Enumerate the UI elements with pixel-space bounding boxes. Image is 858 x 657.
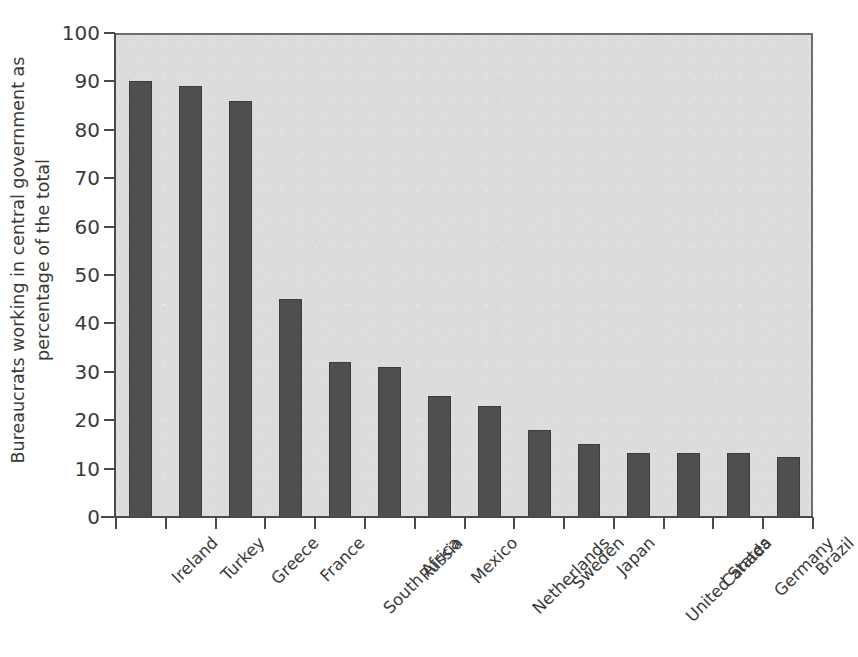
x-axis-tick — [264, 517, 266, 529]
y-axis-tick-label: 40 — [40, 313, 100, 333]
x-axis-tick — [613, 517, 615, 529]
y-axis-tick-label: 0 — [40, 507, 100, 527]
y-axis-tick — [104, 274, 115, 276]
y-axis-tick — [104, 226, 115, 228]
x-axis-tick — [115, 517, 117, 529]
x-axis-tick-label: Ireland — [169, 534, 221, 586]
y-axis-tick — [104, 419, 115, 421]
bar — [528, 430, 551, 517]
x-axis-tick — [414, 517, 416, 529]
y-axis-tick — [104, 177, 115, 179]
x-axis-tick — [464, 517, 466, 529]
y-axis-tick — [104, 80, 115, 82]
y-axis-ticks-and-labels: 0102030405060708090100 — [30, 0, 100, 560]
y-axis-tick — [104, 371, 115, 373]
y-axis-tick-label: 50 — [40, 265, 100, 285]
y-axis-tick-label: 90 — [40, 71, 100, 91]
x-axis-tick-label: France — [317, 534, 368, 585]
x-axis-tick-label: Canada — [718, 534, 774, 590]
plot-area — [116, 33, 813, 517]
y-axis-tick — [104, 468, 115, 470]
x-axis-tick — [663, 517, 665, 529]
bar — [378, 367, 401, 517]
y-axis-tick — [104, 129, 115, 131]
x-axis-tick — [364, 517, 366, 529]
y-axis-tick-label: 30 — [40, 362, 100, 382]
y-axis-tick-label: 70 — [40, 168, 100, 188]
bar — [279, 299, 302, 517]
bar — [428, 396, 451, 517]
y-axis-tick-label: 20 — [40, 410, 100, 430]
bar — [179, 86, 202, 517]
bar — [329, 362, 352, 517]
y-axis-tick-label: 100 — [40, 23, 100, 43]
bar — [777, 457, 800, 517]
x-axis-tick — [812, 517, 814, 529]
x-axis-tick — [215, 517, 217, 529]
bar — [677, 453, 700, 517]
bar — [478, 406, 501, 517]
bar — [727, 453, 750, 517]
y-axis-tick-label: 10 — [40, 459, 100, 479]
x-axis-tick-label: Turkey — [217, 534, 267, 584]
bar — [129, 81, 152, 517]
y-axis-tick — [104, 322, 115, 324]
bar — [578, 444, 601, 517]
y-axis-tick-label: 80 — [40, 120, 100, 140]
y-axis-tick — [104, 516, 115, 518]
bar — [627, 453, 650, 517]
bar — [229, 101, 252, 517]
y-axis-tick-label: 60 — [40, 217, 100, 237]
x-axis-tick-label: Greece — [269, 534, 323, 588]
x-axis-tick-label: Mexico — [467, 534, 520, 587]
x-axis-tick — [314, 517, 316, 529]
y-axis-tick — [104, 32, 115, 34]
x-axis-tick — [513, 517, 515, 529]
y-axis-title-line-1: Bureaucrats working in central governmen… — [6, 57, 31, 464]
x-axis-tick — [165, 517, 167, 529]
x-axis-tick — [762, 517, 764, 529]
x-axis-tick — [712, 517, 714, 529]
x-axis-tick — [563, 517, 565, 529]
bars-layer — [116, 35, 811, 517]
x-axis-line — [101, 516, 813, 518]
